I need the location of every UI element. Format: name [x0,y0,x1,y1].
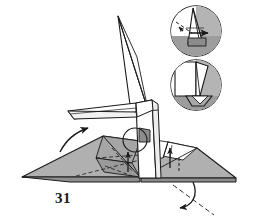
origami-illustration: 31 [0,0,259,218]
step-number: 31 [55,190,71,206]
origami-diagram: 31 [0,0,259,218]
body-dark-notch [139,128,150,142]
inset-top-base-block [188,38,206,46]
inset-detail-top [171,6,221,56]
beak-lower-face [68,111,137,119]
right-wing-edge-band [141,178,236,182]
inset-detail-bottom [171,60,221,110]
